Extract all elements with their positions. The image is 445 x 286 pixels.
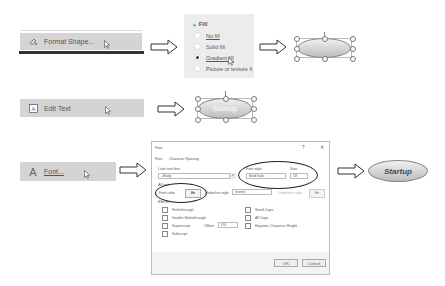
resize-handle[interactable] xyxy=(223,96,229,102)
resize-handle[interactable] xyxy=(350,46,356,52)
help-button[interactable]: ? xyxy=(302,145,305,150)
mouse-cursor-icon xyxy=(104,40,110,49)
checkbox-icon xyxy=(162,207,168,213)
menu-bottom-border xyxy=(19,51,144,54)
ok-button[interactable]: OK xyxy=(274,259,298,267)
format-shape-menu-item[interactable]: Format Shape... xyxy=(20,33,142,50)
font-label: Font... xyxy=(44,168,64,175)
offset-spinner[interactable]: 0% xyxy=(218,222,238,228)
arrow-right-icon xyxy=(337,163,365,179)
arrow-right-icon xyxy=(150,39,178,55)
arrow-right-icon xyxy=(157,101,185,117)
close-button[interactable]: ✕ xyxy=(320,145,324,150)
latin-font-dropdown[interactable]: +Body xyxy=(158,173,235,179)
radio-selected-icon xyxy=(194,54,201,61)
edit-text-menu-item[interactable]: A Edit Text xyxy=(20,99,144,117)
font-A-icon: A xyxy=(28,167,38,177)
mouse-cursor-icon xyxy=(84,170,90,179)
resize-handle[interactable] xyxy=(251,117,257,123)
checkbox-double-strikethrough[interactable]: Double Strikethrough xyxy=(162,215,206,221)
underline-style-label: Underline style xyxy=(205,191,229,195)
edit-text-icon: A xyxy=(28,103,38,113)
fill-panel: ⌄ Fill No fill Solid fill Gradient fill … xyxy=(184,14,254,78)
checkbox-small-caps[interactable]: Small Caps xyxy=(245,207,273,213)
tab-font[interactable]: Font xyxy=(155,157,162,161)
checkbox-subscript[interactable]: Subscript xyxy=(162,231,187,237)
resize-handle[interactable] xyxy=(294,46,300,52)
format-shape-menu-top-line xyxy=(20,30,142,31)
mouse-cursor-icon xyxy=(228,57,234,66)
checkbox-strikethrough[interactable]: Strikethrough xyxy=(162,207,193,213)
checkbox-icon xyxy=(162,215,168,221)
radio-icon xyxy=(194,65,201,72)
underline-color-label: Underline color xyxy=(278,191,302,195)
arrow-right-icon xyxy=(259,39,287,55)
checkbox-icon xyxy=(162,231,168,237)
font-menu-item[interactable]: A Font... xyxy=(20,162,116,181)
cancel-button[interactable]: Cancel xyxy=(302,259,326,267)
radio-picture-texture-fill[interactable]: Picture or texture fi xyxy=(194,63,254,74)
startup-text: Startup xyxy=(213,105,238,112)
resize-handle[interactable] xyxy=(350,36,356,42)
chevron-down-icon: ⌄ xyxy=(192,21,197,27)
effects-label: Effects xyxy=(158,200,169,204)
checkbox-all-caps[interactable]: All Caps xyxy=(245,215,268,221)
mouse-cursor-icon xyxy=(105,106,111,115)
fill-header[interactable]: ⌄ Fill xyxy=(192,20,254,27)
resize-handle[interactable] xyxy=(294,36,300,42)
resize-handle[interactable] xyxy=(294,56,300,62)
highlight-oval xyxy=(238,161,318,189)
resize-handle[interactable] xyxy=(195,117,201,123)
format-shape-label: Format Shape... xyxy=(44,38,94,45)
resize-handle[interactable] xyxy=(251,106,257,112)
resize-handle[interactable] xyxy=(195,96,201,102)
font-dialog: Font ? ✕ Font Character Spacing Latin te… xyxy=(151,141,330,275)
dialog-title: Font xyxy=(155,146,162,150)
resize-handle[interactable] xyxy=(322,36,328,42)
startup-ellipse-selected[interactable]: Startup xyxy=(197,98,253,119)
startup-final-ellipse[interactable]: Startup xyxy=(368,160,428,182)
startup-final-text: Startup xyxy=(384,167,412,176)
radio-solid-fill[interactable]: Solid fill xyxy=(194,41,254,52)
resize-handle[interactable] xyxy=(223,117,229,123)
svg-text:A: A xyxy=(31,106,35,112)
checkbox-icon xyxy=(245,207,251,213)
underline-style-dropdown[interactable]: (none) xyxy=(232,189,272,195)
resize-handle[interactable] xyxy=(350,56,356,62)
underline-color-picker[interactable]: A▾ xyxy=(309,189,325,198)
arrow-right-icon xyxy=(119,162,147,178)
gradient-ellipse-selected[interactable] xyxy=(296,38,352,58)
resize-handle[interactable] xyxy=(195,106,201,112)
checkbox-icon xyxy=(245,223,251,229)
checkbox-superscript[interactable]: Superscript xyxy=(162,223,190,229)
tab-character-spacing[interactable]: Character Spacing xyxy=(169,157,199,161)
checkbox-icon xyxy=(245,215,251,221)
radio-gradient-fill[interactable]: Gradient fill xyxy=(194,52,254,63)
latin-font-label: Latin text font: xyxy=(158,167,181,171)
resize-handle[interactable] xyxy=(322,56,328,62)
offset-label: Offset: xyxy=(204,224,215,228)
radio-icon xyxy=(194,32,201,39)
checkbox-icon xyxy=(162,223,168,229)
checkbox-equalize-height[interactable]: Equalize Character Height xyxy=(245,223,297,229)
radio-no-fill[interactable]: No fill xyxy=(194,30,254,41)
edit-text-label: Edit Text xyxy=(44,105,71,112)
resize-handle[interactable] xyxy=(251,96,257,102)
dropdown-arrow-icon[interactable]: ▾ xyxy=(229,173,236,179)
format-shape-icon xyxy=(28,37,38,47)
radio-icon xyxy=(194,43,201,50)
